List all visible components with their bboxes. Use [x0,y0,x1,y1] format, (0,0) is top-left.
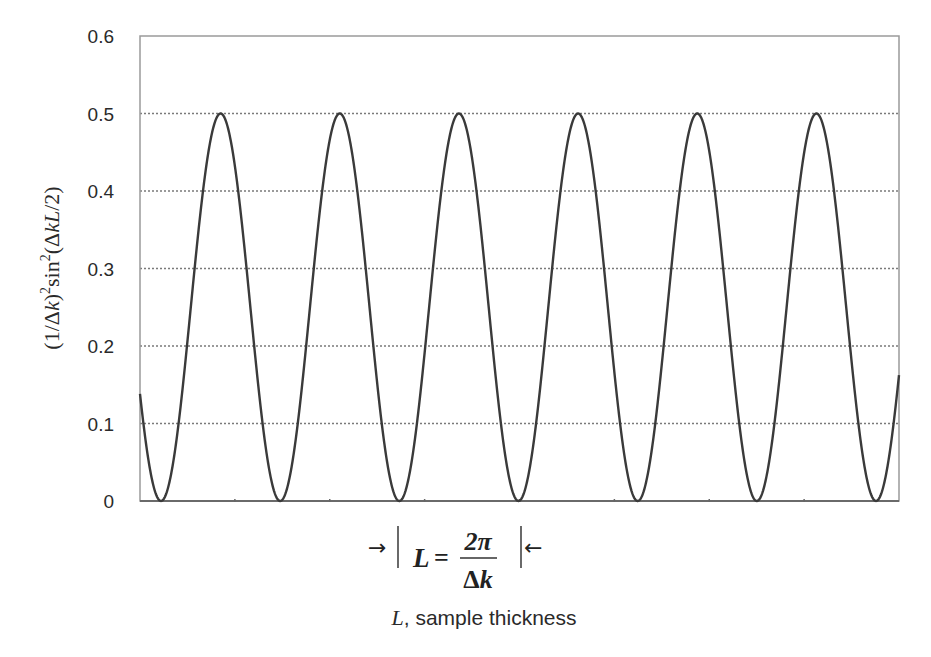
y-tick-labels: 00.10.20.30.40.50.6 [88,26,115,512]
period-annotation: → L = 2π Δk ← [368,526,542,594]
y-tick-label: 0.3 [88,259,114,280]
formula-equals: = [434,543,449,572]
formula-denominator: Δk [463,565,492,594]
x-axis-label: L, sample thickness [391,605,577,630]
y-tick-label: 0.5 [88,104,114,125]
sin-squared-curve [140,114,899,502]
y-tick-label: 0.6 [88,26,114,47]
y-tick-label: 0.4 [88,181,115,202]
formula-lhs: L [412,543,430,573]
y-gridlines [140,114,899,424]
right-pointing-arrow-icon: → [368,535,386,560]
y-axis-label: (1/Δk)2sin2(ΔkL/2) [38,186,64,349]
chart: 00.10.20.30.40.50.6 (1/Δk)2sin2(ΔkL/2) →… [0,0,931,657]
chart-svg: 00.10.20.30.40.50.6 (1/Δk)2sin2(ΔkL/2) →… [0,0,931,657]
formula-numerator: 2π [463,527,492,556]
left-pointing-arrow-icon: ← [524,535,542,560]
y-tick-label: 0.2 [88,336,114,357]
y-tick-label: 0 [103,491,114,512]
y-tick-label: 0.1 [88,414,114,435]
